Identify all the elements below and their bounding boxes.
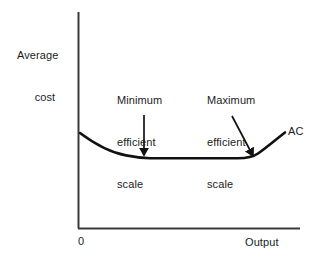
annotation-min-line1: Minimum bbox=[117, 93, 162, 107]
y-axis-label-line2: cost bbox=[17, 90, 73, 104]
annotation-max-line3: scale bbox=[207, 177, 255, 191]
origin-label: 0 bbox=[78, 234, 84, 248]
y-axis-label: Average cost bbox=[17, 20, 73, 132]
average-cost-chart: Average cost Output 0 AC Minimum efficie… bbox=[0, 0, 316, 258]
x-axis-label: Output bbox=[245, 235, 279, 249]
annotation-minimum-efficient-scale: Minimum efficient scale bbox=[117, 65, 162, 219]
annotation-min-line3: scale bbox=[117, 177, 162, 191]
curve-label-ac: AC bbox=[288, 124, 303, 138]
annotation-max-line2: efficient bbox=[207, 135, 255, 149]
y-axis-label-line1: Average bbox=[17, 48, 73, 62]
annotation-maximum-efficient-scale: Maximum efficient scale bbox=[207, 65, 255, 219]
annotation-min-line2: efficient bbox=[117, 135, 162, 149]
annotation-max-line1: Maximum bbox=[207, 93, 255, 107]
